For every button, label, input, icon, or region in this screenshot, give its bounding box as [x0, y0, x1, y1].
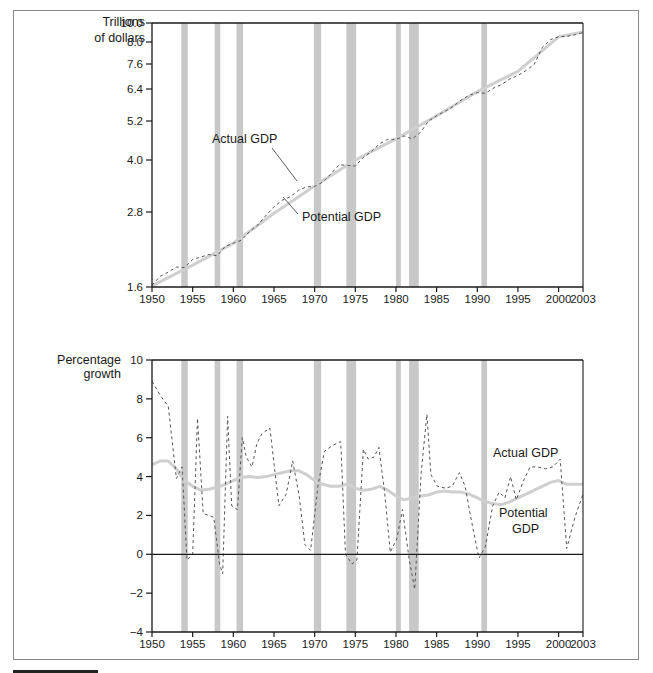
x-tick-label: 2000	[546, 293, 572, 305]
x-tick-label: 1980	[383, 293, 409, 305]
y-axis-title-line1: Trillions	[102, 15, 145, 29]
x-tick-label: 1995	[505, 638, 531, 650]
bottom-chart-axes: −4−2024681019501955196019651970197519801…	[130, 354, 596, 650]
x-tick-label: 1960	[221, 638, 247, 650]
y-tick-label: 7.6	[127, 58, 143, 70]
x-tick-label: 1970	[302, 638, 328, 650]
recession-band	[346, 360, 356, 632]
x-tick-label: 1960	[221, 293, 247, 305]
actual-gdp-leader-line	[272, 148, 297, 181]
bottom-chart-growth: −4−2024681019501955196019651970197519801…	[57, 353, 596, 650]
actual-gdp-annotation: Actual GDP	[212, 132, 277, 146]
y-tick-label: 0	[137, 548, 143, 560]
recession-bands	[181, 360, 487, 632]
recession-band	[481, 23, 487, 287]
x-tick-label: 1950	[139, 638, 165, 650]
y-axis-title-line2: growth	[83, 367, 121, 381]
x-tick-label: 2000	[546, 638, 572, 650]
y-tick-label: 5.2	[127, 115, 143, 127]
y-tick-label: 10	[130, 354, 143, 366]
y-tick-label: 6.4	[127, 83, 144, 95]
actual-gdp-annotation: Actual GDP	[493, 446, 558, 460]
recession-band	[346, 23, 356, 287]
recession-band	[181, 23, 188, 287]
y-tick-label: −2	[130, 587, 143, 599]
x-tick-label: 1980	[383, 638, 409, 650]
potential-gdp-annotation: Potential GDP	[302, 210, 381, 224]
x-tick-label: 1985	[424, 293, 450, 305]
x-tick-label: 2003	[570, 293, 596, 305]
x-tick-label: 2003	[570, 638, 596, 650]
recession-band	[314, 23, 321, 287]
gdp-figure: 1.62.84.05.26.47.68.010.0195019551960196…	[0, 0, 653, 673]
recession-band	[481, 360, 487, 632]
y-tick-label: 1.6	[127, 281, 143, 293]
y-tick-label: −4	[130, 626, 144, 638]
x-tick-label: 1990	[464, 638, 490, 650]
recession-band	[237, 360, 244, 632]
x-tick-label: 1970	[302, 293, 328, 305]
x-tick-label: 1965	[261, 293, 287, 305]
y-axis-title-line1: Percentage	[57, 353, 121, 367]
x-tick-label: 1995	[505, 293, 531, 305]
x-tick-label: 1975	[343, 638, 369, 650]
x-tick-label: 1955	[180, 293, 206, 305]
recession-band	[181, 360, 188, 632]
recession-band	[237, 23, 244, 287]
y-tick-label: 2.8	[127, 206, 143, 218]
recession-band	[409, 23, 419, 287]
y-tick-label: 4.0	[127, 154, 143, 166]
x-tick-label: 1965	[261, 638, 287, 650]
top-chart-axes: 1.62.84.05.26.47.68.010.0195019551960196…	[121, 17, 596, 305]
x-tick-label: 1975	[343, 293, 369, 305]
potential-gdp-annotation-line2: GDP	[512, 522, 539, 536]
y-tick-label: 8	[137, 393, 143, 405]
x-tick-label: 1990	[464, 293, 490, 305]
y-axis-title-line2: of dollars	[94, 31, 145, 45]
x-tick-label: 1955	[180, 638, 206, 650]
x-tick-label: 1985	[424, 638, 450, 650]
recession-band	[396, 23, 401, 287]
recession-band	[215, 360, 221, 632]
y-tick-label: 4	[137, 471, 144, 483]
y-tick-label: 6	[137, 432, 143, 444]
potential-gdp-annotation-line1: Potential	[499, 506, 548, 520]
y-tick-label: 2	[137, 509, 143, 521]
x-tick-label: 1950	[139, 293, 165, 305]
recession-band	[314, 360, 321, 632]
top-chart-level-gdp: 1.62.84.05.26.47.68.010.0195019551960196…	[94, 15, 596, 305]
recession-band	[215, 23, 221, 287]
